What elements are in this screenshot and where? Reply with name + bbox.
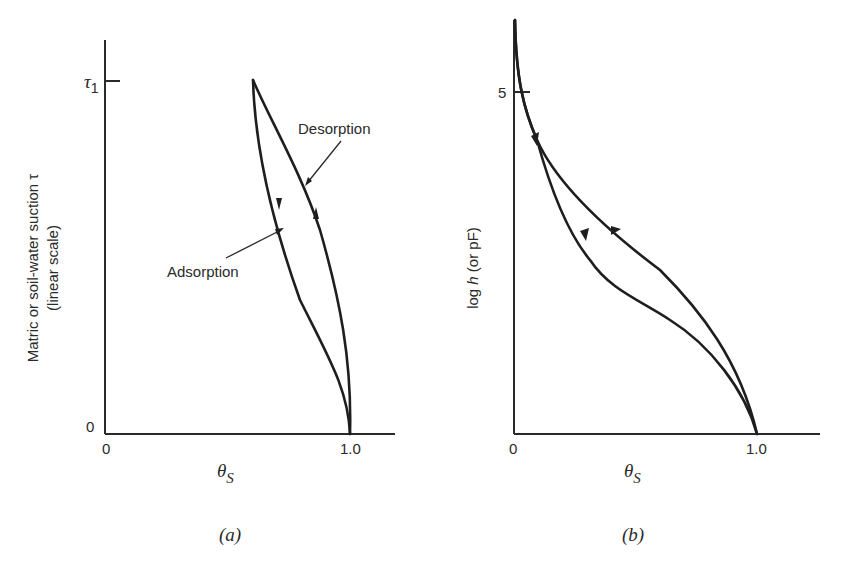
- panel-b-desorption-curve: [515, 20, 757, 434]
- svg-text:log h (or pF): log h (or pF): [464, 227, 481, 309]
- panel-a-x-one-label: 1.0: [340, 440, 361, 457]
- panel-b-x-one-label: 1.0: [746, 440, 767, 457]
- svg-text:(linear scale): (linear scale): [44, 225, 61, 311]
- panel-a-x-axis-label: θS: [217, 460, 234, 486]
- panel-b-caption: (b): [622, 524, 644, 546]
- panel-b-adsorption-curve: [515, 20, 757, 434]
- panel-a-desorption-label: Desorption: [298, 120, 371, 137]
- panel-b-y-tick-5-label: 5: [498, 84, 506, 101]
- panel-a-caption: (a): [219, 524, 241, 546]
- panel-a-x-zero-label: 0: [102, 440, 110, 457]
- panel-a-desorption-pointer: [308, 141, 341, 182]
- panel-a: τ1 0 0 1.0 θS Matric or soil-water sucti…: [24, 40, 395, 546]
- panel-b: 5 0 1.0 θS log h (or pF) (b): [464, 20, 820, 546]
- panel-a-adsorption-label: Adsorption: [167, 263, 239, 280]
- panel-a-y-axis-label: Matric or soil-water suction τ (linear s…: [24, 174, 61, 363]
- panel-b-y-axis-label: log h (or pF): [464, 227, 481, 309]
- panel-b-x-axis-label: θS: [624, 460, 641, 486]
- panel-b-adsorption-arrow-down-icon: [580, 228, 589, 241]
- svg-text:Matric or soil-water suction τ: Matric or soil-water suction τ: [24, 174, 41, 363]
- panel-a-adsorption-pointer: [226, 230, 281, 258]
- figure-canvas: τ1 0 0 1.0 θS Matric or soil-water sucti…: [0, 0, 841, 571]
- panel-b-x-zero-label: 0: [509, 440, 517, 457]
- panel-a-y-zero-label: 0: [86, 418, 94, 435]
- panel-a-tau1-label: τ1: [84, 71, 99, 96]
- panel-a-adsorption-arrow-down-icon: [276, 198, 282, 210]
